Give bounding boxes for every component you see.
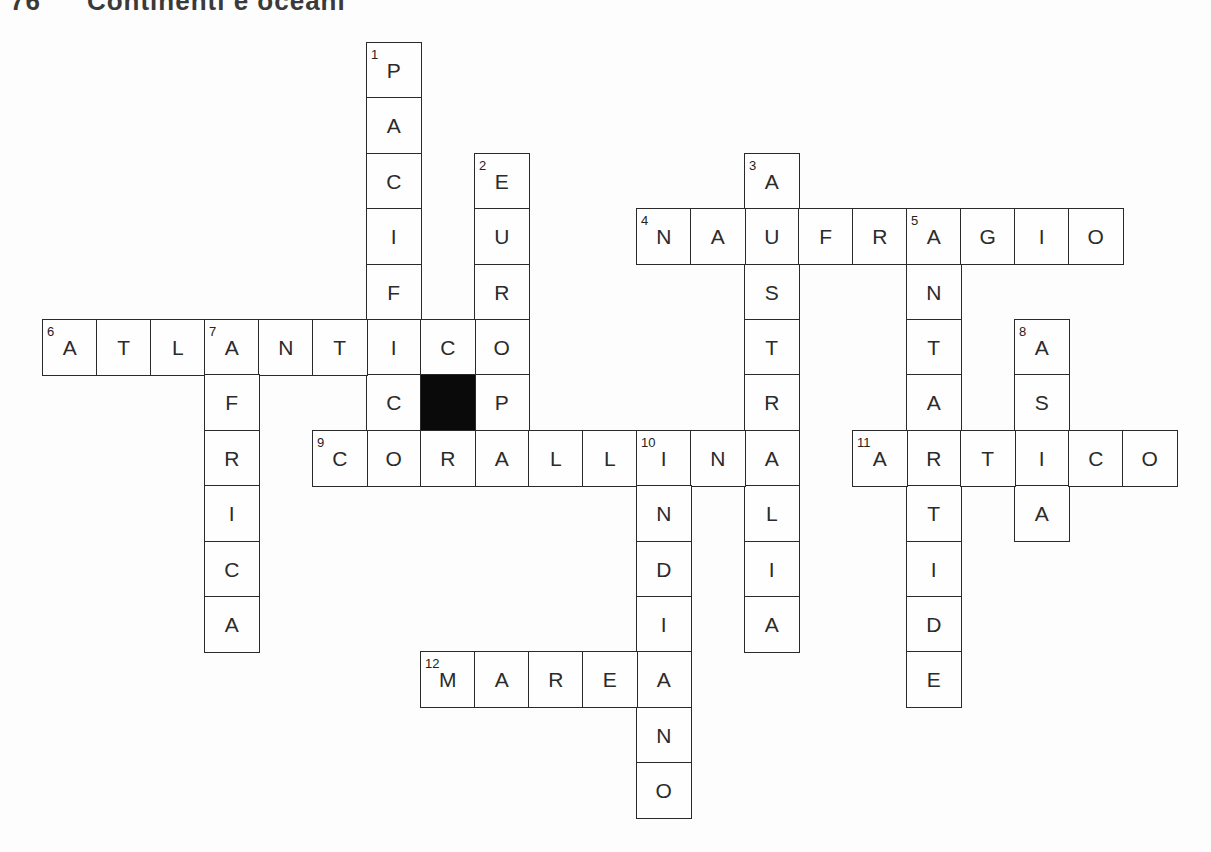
cell-letter: R	[440, 448, 455, 469]
crossword-cell[interactable]: C	[420, 319, 476, 376]
crossword-cell[interactable]: 1P	[366, 42, 422, 99]
crossword-cell[interactable]: A	[366, 97, 422, 154]
crossword-cell[interactable]: R	[852, 208, 908, 265]
cell-letter: U	[494, 226, 509, 247]
crossword-cell[interactable]: I	[1014, 430, 1070, 487]
crossword-cell[interactable]: 4N	[636, 208, 692, 265]
crossword-cell[interactable]: I	[366, 319, 422, 376]
crossword-cell[interactable]: O	[1068, 208, 1124, 265]
crossword-cell[interactable]: 2E	[474, 153, 530, 210]
crossword-cell[interactable]: D	[906, 596, 962, 653]
crossword-cell[interactable]: U	[744, 208, 800, 265]
crossword-cell[interactable]: D	[636, 541, 692, 598]
crossword-cell[interactable]: E	[906, 651, 962, 708]
black-cell	[420, 374, 476, 431]
crossword-cell[interactable]: I	[906, 541, 962, 598]
cell-letter: A	[765, 614, 779, 635]
cell-letter: C	[440, 337, 455, 358]
crossword-cell[interactable]: S	[744, 264, 800, 321]
crossword-cell[interactable]: F	[366, 264, 422, 321]
crossword-cell[interactable]: L	[744, 485, 800, 542]
crossword-cell[interactable]: 8A	[1014, 319, 1070, 376]
crossword-cell[interactable]: A	[1014, 485, 1070, 542]
crossword-cell[interactable]: T	[312, 319, 368, 376]
crossword-cell[interactable]: 10I	[636, 430, 692, 487]
crossword-cell[interactable]: R	[528, 651, 584, 708]
cell-letter: I	[1039, 226, 1045, 247]
crossword-cell[interactable]: 9C	[312, 430, 368, 487]
crossword-cell[interactable]: A	[744, 596, 800, 653]
crossword-cell[interactable]: N	[690, 430, 746, 487]
crossword-cell[interactable]: E	[582, 651, 638, 708]
crossword-cell[interactable]: O	[366, 430, 422, 487]
crossword-cell[interactable]: N	[258, 319, 314, 376]
crossword-cell[interactable]: R	[906, 430, 962, 487]
crossword-cell[interactable]: L	[582, 430, 638, 487]
cell-letter: A	[711, 226, 725, 247]
cell-letter: A	[495, 448, 509, 469]
crossword-cell[interactable]: G	[960, 208, 1016, 265]
cell-letter: L	[550, 448, 562, 469]
crossword-cell[interactable]: L	[528, 430, 584, 487]
cell-letter: L	[604, 448, 616, 469]
cell-letter: R	[548, 669, 563, 690]
crossword-cell[interactable]: N	[636, 707, 692, 764]
crossword-cell[interactable]: 5A	[906, 208, 962, 265]
cell-letter: O	[494, 337, 510, 358]
crossword-cell[interactable]: 6A	[42, 319, 98, 376]
cell-letter: S	[1035, 392, 1049, 413]
crossword-cell[interactable]: T	[960, 430, 1016, 487]
cell-letter: F	[819, 226, 832, 247]
crossword-cell[interactable]: O	[1122, 430, 1178, 487]
crossword-cell[interactable]: O	[636, 762, 692, 819]
crossword-cell[interactable]: N	[906, 264, 962, 321]
crossword-cell[interactable]: I	[1014, 208, 1070, 265]
cell-letter: A	[657, 669, 671, 690]
crossword-cell[interactable]: 7A	[204, 319, 260, 376]
crossword-cell[interactable]: U	[474, 208, 530, 265]
crossword-cell[interactable]: P	[474, 374, 530, 431]
crossword-cell[interactable]: C	[366, 374, 422, 431]
crossword-cell[interactable]: O	[474, 319, 530, 376]
clue-number: 8	[1019, 325, 1026, 338]
crossword-cell[interactable]: N	[636, 485, 692, 542]
crossword-cell[interactable]: 3A	[744, 153, 800, 210]
crossword-cell[interactable]: A	[474, 651, 530, 708]
crossword-cell[interactable]: R	[474, 264, 530, 321]
crossword-cell[interactable]: R	[420, 430, 476, 487]
crossword-cell[interactable]: I	[366, 208, 422, 265]
cell-letter: A	[387, 115, 401, 136]
crossword-cell[interactable]: A	[204, 596, 260, 653]
crossword-cell[interactable]: C	[204, 541, 260, 598]
clue-number: 11	[857, 436, 871, 449]
cell-letter: T	[981, 448, 994, 469]
cell-letter: D	[926, 614, 941, 635]
crossword-cell[interactable]: C	[366, 153, 422, 210]
crossword-cell[interactable]: 12M	[420, 651, 476, 708]
crossword-cell[interactable]: L	[150, 319, 206, 376]
crossword-cell[interactable]: C	[1068, 430, 1124, 487]
crossword-cell[interactable]: R	[204, 430, 260, 487]
crossword-cell[interactable]: T	[744, 319, 800, 376]
crossword-cell[interactable]: A	[690, 208, 746, 265]
crossword-cell[interactable]: T	[96, 319, 152, 376]
cell-letter: T	[927, 503, 940, 524]
crossword-cell[interactable]: I	[744, 541, 800, 598]
crossword-cell[interactable]: 11A	[852, 430, 908, 487]
crossword-cell[interactable]: R	[744, 374, 800, 431]
crossword-cell[interactable]: T	[906, 485, 962, 542]
crossword-cell[interactable]: F	[204, 374, 260, 431]
crossword-cell[interactable]: T	[906, 319, 962, 376]
crossword-cell[interactable]: A	[636, 651, 692, 708]
crossword-cell[interactable]: A	[906, 374, 962, 431]
crossword-cell[interactable]: I	[204, 485, 260, 542]
cell-letter: L	[766, 503, 778, 524]
crossword-cell[interactable]: F	[798, 208, 854, 265]
clue-number: 10	[641, 436, 655, 449]
cell-letter: A	[1035, 337, 1049, 358]
crossword-cell[interactable]: S	[1014, 374, 1070, 431]
crossword-cell[interactable]: I	[636, 596, 692, 653]
crossword-cell[interactable]: A	[474, 430, 530, 487]
crossword-cell[interactable]: A	[744, 430, 800, 487]
cell-letter: A	[495, 669, 509, 690]
